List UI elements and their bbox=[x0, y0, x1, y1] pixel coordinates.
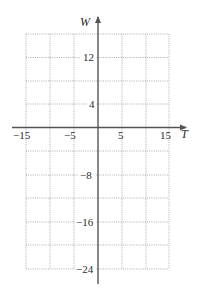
x-axis-label: T bbox=[181, 127, 189, 141]
y-tick-label: −16 bbox=[76, 216, 94, 228]
x-tick-label: −5 bbox=[64, 129, 76, 141]
y-tick-label: −24 bbox=[76, 263, 94, 275]
x-tick-label: 5 bbox=[118, 129, 124, 141]
y-tick-label: 12 bbox=[83, 51, 94, 63]
y-tick-label: 4 bbox=[89, 98, 95, 110]
y-tick-label: −8 bbox=[80, 169, 92, 181]
coordinate-grid: W T −15 −5 5 15 12 4 −8 −16 −24 bbox=[0, 0, 207, 297]
x-tick-label: 15 bbox=[160, 129, 172, 141]
x-tick-label: −15 bbox=[13, 129, 31, 141]
y-axis-label: W bbox=[80, 15, 91, 29]
